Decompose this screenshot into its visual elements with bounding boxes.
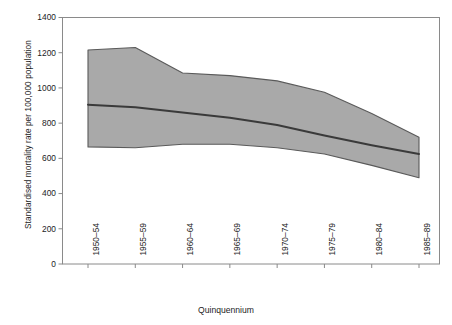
y-axis-title: Standardised mortality rate per 100,000 … — [24, 15, 33, 255]
x-tick-label: 1960–64 — [186, 223, 194, 269]
chart-figure: 0200400600800100012001400 1950–541955–59… — [0, 0, 452, 325]
x-tick-label: 1970–74 — [281, 223, 289, 269]
x-tick-label: 1950–54 — [92, 223, 100, 269]
x-tick-label: 1975–79 — [328, 223, 336, 269]
x-tick-label: 1965–69 — [233, 223, 241, 269]
x-tick-label: 1985–89 — [423, 223, 431, 269]
x-axis-title: Quinquennium — [0, 305, 452, 315]
x-tick-label: 1955–59 — [139, 223, 147, 269]
x-tick-label: 1980–84 — [375, 223, 383, 269]
x-axis-labels: 1950–541955–591960–641965–691970–741975–… — [0, 0, 452, 325]
